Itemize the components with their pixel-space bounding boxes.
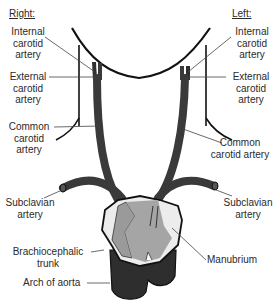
header-left: Left: — [232, 8, 251, 20]
label-internal-carotid-left: Internal carotid artery — [232, 26, 272, 61]
label-subclavian-left: Subclavian artery — [222, 197, 274, 220]
header-right: Right: — [9, 8, 35, 20]
label-common-carotid-right: Common carotid artery — [6, 121, 52, 156]
label-external-carotid-right: External carotid artery — [6, 71, 50, 106]
neck-curve-right — [56, 118, 79, 140]
label-subclavian-right: Subclavian artery — [4, 197, 56, 220]
label-internal-carotid-right: Internal carotid artery — [8, 26, 48, 61]
label-brachiocephalic-trunk: Brachiocephalic trunk — [8, 246, 88, 269]
carotid-anatomy-diagram: Right: Internal carotid artery External … — [0, 0, 278, 305]
label-external-carotid-left: External carotid artery — [227, 71, 275, 106]
label-common-carotid-left: Common carotid artery — [204, 137, 276, 160]
label-manubrium: Manubrium — [207, 254, 257, 266]
label-arch-of-aorta: Arch of aorta — [23, 277, 80, 289]
